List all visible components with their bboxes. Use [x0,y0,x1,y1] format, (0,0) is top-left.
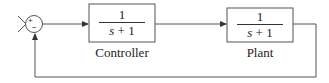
controller-denominator-rest: + 1 [114,23,134,38]
plant-numerator: 1 [237,10,283,25]
controller-numerator: 1 [99,8,145,23]
plant-label: Plant [227,45,293,61]
minus-sign: − [32,24,37,32]
controller-transfer-function: 1 s + 1 [89,4,155,42]
plant-denominator-rest: + 1 [252,25,272,40]
controller-denominator: s + 1 [109,23,134,38]
controller-label: Controller [89,45,155,61]
plant-transfer-function: 1 s + 1 [227,8,293,42]
plant-denominator: s + 1 [247,25,272,40]
input-cross-icon [18,16,26,32]
